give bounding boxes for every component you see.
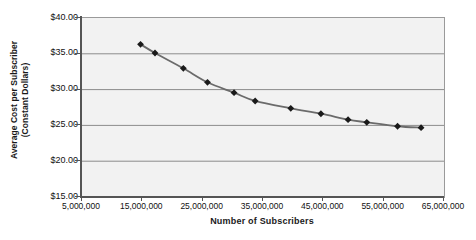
data-point-marker[interactable]: [252, 98, 259, 105]
data-point-marker[interactable]: [231, 89, 238, 96]
data-point-marker[interactable]: [204, 79, 211, 86]
y-axis-title-line1: Average Cost per Subscriber: [9, 41, 19, 159]
y-axis-title-line2: (Constant Dollars): [20, 63, 30, 138]
y-axis-line: [80, 16, 82, 197]
y-axis-tick-mark: [75, 17, 81, 18]
plot-area: [81, 17, 445, 198]
y-axis-tick-mark: [75, 53, 81, 54]
y-axis-tick-label: $35.00: [36, 48, 78, 57]
data-point-marker[interactable]: [363, 119, 370, 126]
data-point-marker[interactable]: [318, 110, 325, 117]
y-axis-tick-label: $15.00: [36, 192, 78, 201]
x-axis-tick-label: 65,000,000: [408, 201, 476, 211]
series-line: [141, 44, 422, 127]
y-axis-tick-mark: [75, 124, 81, 125]
y-axis-tick-label: $40.00: [36, 13, 78, 22]
y-axis-tick-label: $30.00: [36, 84, 78, 93]
y-axis-tick-mark: [75, 89, 81, 90]
y-axis-tick-label: $25.00: [36, 120, 78, 129]
x-axis-title: Number of Subscribers: [81, 216, 443, 226]
data-point-marker[interactable]: [345, 116, 352, 123]
plot-svg: [82, 18, 444, 197]
chart-container: Average Cost per Subscriber (Constant Do…: [0, 0, 476, 240]
data-point-marker[interactable]: [287, 105, 294, 112]
y-axis-tick-label: $20.00: [36, 156, 78, 165]
x-axis-tick-labels: 5,000,00015,000,00025,000,00035,000,0004…: [0, 201, 476, 215]
y-axis-title: Average Cost per Subscriber (Constant Do…: [0, 0, 40, 200]
data-point-marker[interactable]: [394, 123, 401, 130]
y-axis-tick-mark: [75, 160, 81, 161]
